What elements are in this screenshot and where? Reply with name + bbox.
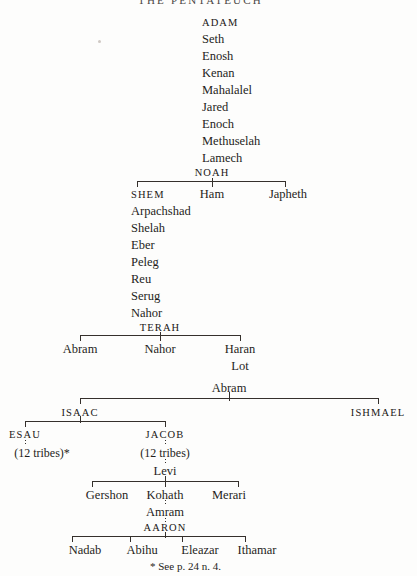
node-seth: Seth xyxy=(202,33,224,46)
connector-aaron-to-eleazar xyxy=(182,536,183,542)
node-adam: ADAM xyxy=(202,18,239,29)
connector-isaac-to-esau xyxy=(25,421,26,427)
node-abram-son-of-terah: Abram xyxy=(63,343,98,356)
scan-speck xyxy=(98,40,101,43)
node-nahor-son-of-terah: Nahor xyxy=(144,343,175,356)
node-enoch: Enoch xyxy=(202,118,234,131)
node-amram: Amram xyxy=(146,506,184,519)
connector-levi-to-gershon xyxy=(92,481,93,487)
node-shem: SHEM xyxy=(131,190,165,201)
node-lamech: Lamech xyxy=(202,152,242,165)
node-noah: NOAH xyxy=(195,168,230,179)
node-nahor-shem-line: Nahor xyxy=(131,307,162,320)
node-merari: Merari xyxy=(212,489,246,502)
node-ham: Ham xyxy=(200,188,224,201)
node-abihu: Abihu xyxy=(126,544,157,557)
connector-abram-to-isaac xyxy=(80,398,81,404)
node-esau-twelve-tribes: (12 tribes)* xyxy=(14,447,70,459)
connector-levi-to-kohath xyxy=(165,481,166,487)
footnote: * See p. 24 n. 4. xyxy=(150,560,221,572)
connector-aaron-to-abihu xyxy=(130,536,131,542)
node-reu: Reu xyxy=(131,273,151,286)
connector-terah-to-abram xyxy=(80,335,81,341)
node-serug: Serug xyxy=(131,290,160,303)
node-shelah: Shelah xyxy=(131,222,165,235)
connector-abram-stem xyxy=(229,392,230,401)
node-enosh: Enosh xyxy=(202,50,233,63)
connector-levi-to-merari xyxy=(238,481,239,487)
connector-isaac-to-jacob xyxy=(165,421,166,427)
node-arpachshad: Arpachshad xyxy=(131,205,191,218)
connector-aaron-bar xyxy=(72,536,245,537)
connector-aaron-stem xyxy=(165,532,166,538)
connector-abram-bar xyxy=(80,398,378,399)
node-eber: Eber xyxy=(131,239,155,252)
connector-terah-to-nahor xyxy=(160,335,161,341)
node-ishmael: ISHMAEL xyxy=(351,408,405,419)
node-haran: Haran xyxy=(225,343,256,356)
connector-aaron-to-ithamar xyxy=(245,536,246,542)
node-mahalalel: Mahalalel xyxy=(202,84,252,97)
node-lot: Lot xyxy=(231,360,248,373)
connector-aaron-to-nadab xyxy=(72,536,73,542)
node-jacob-twelve-tribes: (12 tribes) xyxy=(140,447,190,459)
connector-terah-to-haran xyxy=(240,335,241,341)
connector-isaac-bar xyxy=(25,421,165,422)
connector-noah-bar xyxy=(137,181,285,182)
node-nadab: Nadab xyxy=(69,544,102,557)
connector-noah-to-shem xyxy=(137,181,138,187)
node-jacob: JACOB xyxy=(146,430,185,441)
node-gershon: Gershon xyxy=(86,489,128,502)
node-eleazar: Eleazar xyxy=(181,544,218,557)
page-title: THE PENTATEUCH xyxy=(138,0,263,6)
node-japheth: Japheth xyxy=(269,188,307,201)
genealogy-chart-page: THE PENTATEUCH ADAM Seth Enosh Kenan Mah… xyxy=(0,0,417,576)
connector-abram-to-ishmael xyxy=(378,398,379,404)
node-esau: ESAU xyxy=(9,430,41,441)
node-jared: Jared xyxy=(202,101,228,114)
node-kenan: Kenan xyxy=(202,67,235,80)
node-methuselah: Methuselah xyxy=(202,135,260,148)
node-peleg: Peleg xyxy=(131,256,159,269)
node-ithamar: Ithamar xyxy=(238,544,277,557)
